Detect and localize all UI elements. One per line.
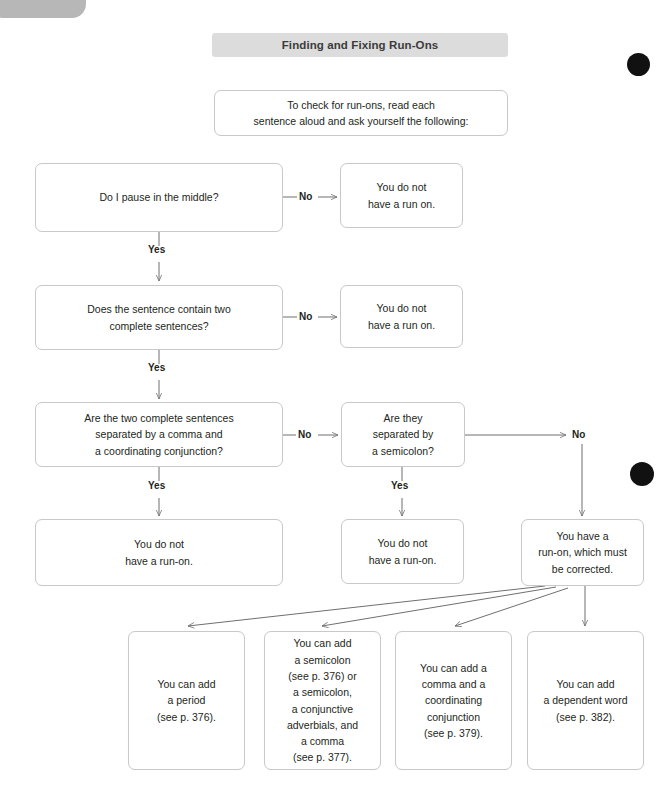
intro-box: To check for run-ons, read each sentence… bbox=[214, 90, 508, 136]
flowchart-page: Finding and Fixing Run-Ons bbox=[0, 0, 670, 806]
decision-semicolon-question: Are they separated by a semicolon? bbox=[372, 410, 434, 459]
fix-semicolon-or-conjunctive-text: You can add a semicolon (see p. 376) or … bbox=[287, 635, 358, 765]
page-title-banner: Finding and Fixing Run-Ons bbox=[212, 33, 508, 57]
edge-label-semicolon-no: No bbox=[572, 429, 585, 440]
decision-box-pause[interactable]: Do I pause in the middle? bbox=[35, 163, 283, 232]
fix-comma-coordinating-text: You can add a comma and a coordinating c… bbox=[420, 660, 487, 741]
decision-box-two-sentences[interactable]: Does the sentence contain two complete s… bbox=[35, 285, 283, 350]
result-pause-no-text: You do not have a run on. bbox=[368, 179, 435, 212]
fix-box-comma-coordinating: You can add a comma and a coordinating c… bbox=[395, 631, 512, 770]
edge-label-pause-yes: Yes bbox=[148, 244, 165, 255]
result-two-sentences-no-text: You do not have a run on. bbox=[368, 300, 435, 333]
result-semicolon-yes-text: You do not have a run-on. bbox=[369, 535, 437, 568]
result-run-on-text: You have a run-on, which must be correct… bbox=[538, 528, 627, 577]
result-box-comma-conjunction-yes: You do not have a run-on. bbox=[35, 519, 283, 586]
result-box-two-sentences-no: You do not have a run on. bbox=[340, 285, 463, 348]
page-marker-dot-middle-icon bbox=[630, 462, 654, 486]
decision-two-sentences-question: Does the sentence contain two complete s… bbox=[87, 301, 231, 334]
edge-label-comma-conjunction-yes: Yes bbox=[148, 480, 165, 491]
intro-text: To check for run-ons, read each sentence… bbox=[254, 97, 469, 130]
result-box-run-on: You have a run-on, which must be correct… bbox=[521, 519, 644, 586]
edge-label-pause-no: No bbox=[299, 191, 312, 202]
fix-box-semicolon-or-conjunctive: You can add a semicolon (see p. 376) or … bbox=[264, 631, 381, 770]
result-box-semicolon-yes: You do not have a run-on. bbox=[341, 519, 464, 584]
decision-box-comma-conjunction[interactable]: Are the two complete sentences separated… bbox=[35, 402, 283, 467]
edge-label-two-sentences-no: No bbox=[299, 311, 312, 322]
edge-label-comma-conjunction-no: No bbox=[298, 429, 311, 440]
fix-box-dependent-word: You can add a dependent word (see p. 382… bbox=[527, 631, 644, 770]
decision-box-semicolon[interactable]: Are they separated by a semicolon? bbox=[341, 402, 465, 467]
result-box-pause-no: You do not have a run on. bbox=[340, 163, 463, 228]
decision-comma-conjunction-question: Are the two complete sentences separated… bbox=[84, 410, 233, 459]
fix-period-text: You can add a period (see p. 376). bbox=[157, 676, 216, 725]
page-marker-dot-top-icon bbox=[627, 53, 650, 76]
fix-box-period: You can add a period (see p. 376). bbox=[128, 631, 245, 770]
result-comma-conjunction-yes-text: You do not have a run-on. bbox=[125, 536, 193, 569]
edge-label-two-sentences-yes: Yes bbox=[148, 362, 165, 373]
fix-dependent-word-text: You can add a dependent word (see p. 382… bbox=[543, 676, 627, 725]
corner-tab-decoration bbox=[0, 0, 86, 18]
page-title: Finding and Fixing Run-Ons bbox=[282, 39, 439, 51]
edge-label-semicolon-yes: Yes bbox=[391, 480, 408, 491]
decision-pause-question: Do I pause in the middle? bbox=[99, 189, 218, 205]
